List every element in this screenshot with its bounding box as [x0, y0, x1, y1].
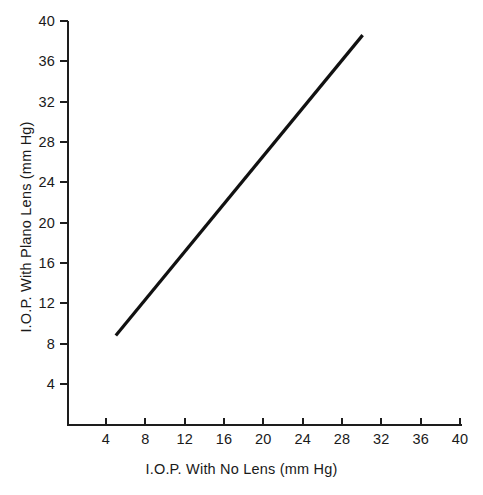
y-axis-tick — [60, 222, 68, 224]
y-axis-tick — [60, 101, 68, 103]
y-axis-title-container: I.O.P. With Plano Lens (mm Hg) — [17, 17, 39, 437]
x-axis-title: I.O.P. With No Lens (mm Hg) — [0, 461, 483, 477]
x-axis-tick-label: 28 — [322, 432, 362, 447]
x-axis-tick-label: 24 — [283, 432, 323, 447]
x-axis-tick-label: 8 — [125, 432, 165, 447]
x-axis-tick-label: 40 — [440, 432, 480, 447]
x-axis-tick-label: 16 — [204, 432, 244, 447]
x-axis-tick-label: 36 — [401, 432, 441, 447]
y-axis-tick — [60, 343, 68, 345]
series-line-regression — [68, 0, 462, 425]
x-axis-tick-label: 4 — [86, 432, 126, 447]
y-axis-tick — [60, 383, 68, 385]
y-axis-tick — [60, 302, 68, 304]
y-axis-tick — [60, 262, 68, 264]
x-axis-tick-label: 32 — [361, 432, 401, 447]
chart-figure: 403632282420161284 481216202428323640 I.… — [0, 0, 483, 495]
y-axis-tick — [60, 60, 68, 62]
y-axis-title: I.O.P. With Plano Lens (mm Hg) — [18, 121, 34, 332]
plot-area — [68, 0, 462, 425]
y-axis-tick — [60, 181, 68, 183]
y-axis-tick — [60, 141, 68, 143]
y-axis-tick — [60, 20, 68, 22]
x-axis-tick-label: 12 — [165, 432, 205, 447]
x-axis-tick-label: 20 — [243, 432, 283, 447]
